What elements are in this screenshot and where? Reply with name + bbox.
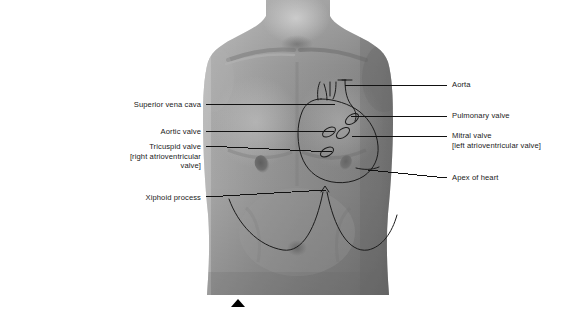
label-superior-vena-cava: Superior vena cava — [134, 100, 201, 110]
label-line: Aortic valve — [161, 127, 201, 137]
label-line: Superior vena cava — [134, 100, 201, 110]
label-aorta: Aorta — [452, 80, 471, 90]
label-line: Xiphoid process — [145, 193, 201, 203]
label-line: [right atrioventricular — [130, 152, 201, 162]
label-apex-of-heart: Apex of heart — [452, 173, 498, 183]
label-mitral-valve: Mitral valve[left atrioventricular valve… — [452, 131, 541, 150]
label-line: Pulmonary valve — [452, 111, 510, 121]
label-line: Tricuspid valve — [130, 142, 201, 152]
bottom-center-triangle-marker — [231, 299, 245, 307]
label-line: valve] — [130, 161, 201, 171]
label-line: Mitral valve — [452, 131, 541, 141]
thorax-photograph — [0, 0, 575, 319]
photograph-svg — [0, 0, 575, 319]
body-silhouette — [190, 0, 406, 300]
label-tricuspid-valve: Tricuspid valve[right atrioventricularva… — [130, 142, 201, 171]
label-line: Apex of heart — [452, 173, 498, 183]
label-pulmonary-valve: Pulmonary valve — [452, 111, 510, 121]
figure-canvas: Superior vena cavaAortic valveTricuspid … — [0, 0, 575, 319]
label-aortic-valve: Aortic valve — [161, 127, 201, 137]
label-xiphoid-process: Xiphoid process — [145, 193, 201, 203]
label-line: Aorta — [452, 80, 471, 90]
label-line: [left atrioventricular valve] — [452, 141, 541, 151]
